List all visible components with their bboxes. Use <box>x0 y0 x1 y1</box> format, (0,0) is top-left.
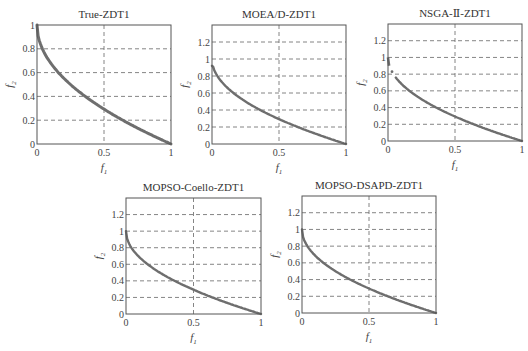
y-tick-label: 1 <box>205 54 210 65</box>
y-tick-label: 1.2 <box>112 209 125 220</box>
x-axis-label: f1 <box>101 161 108 176</box>
y-tick-label: 0.8 <box>198 71 211 82</box>
x-tick-label: 1 <box>169 147 174 158</box>
y-tick-label: 0.2 <box>374 119 387 130</box>
x-tick-label: 1 <box>259 317 264 328</box>
y-tick-label: 1 <box>381 52 386 63</box>
y-tick-label: 0.6 <box>198 88 211 99</box>
y-axis-label: f2 <box>92 252 107 259</box>
y-tick-label: 0.6 <box>112 259 125 270</box>
subplot-title: NSGA-Ⅱ-ZDT1 <box>419 7 491 19</box>
subplot-mopso-coello-zdt1: MOPSO-Coello-ZDT100.20.40.60.811.200.51f… <box>92 181 264 346</box>
y-tick-label: 0.8 <box>112 242 125 253</box>
x-tick-label: 0.5 <box>98 147 111 158</box>
y-tick-label: 0.8 <box>374 69 387 80</box>
y-tick-label: 0.8 <box>288 241 301 252</box>
subplot-moead-zdt1: MOEA/D-ZDT100.20.40.60.811.200.51f1f2 <box>178 8 349 176</box>
x-tick-label: 1 <box>434 316 439 327</box>
pareto-front-curve <box>396 78 522 141</box>
subplot-true-zdt1: True-ZDT100.20.40.60.8100.51f1f2 <box>3 8 174 176</box>
y-axis-label: f2 <box>178 81 193 88</box>
x-tick-label: 0 <box>124 317 129 328</box>
x-tick-label: 0.5 <box>363 316 376 327</box>
y-tick-label: 1 <box>30 20 35 31</box>
y-axis-label: f2 <box>3 81 18 88</box>
y-tick-label: 0.4 <box>288 274 301 285</box>
x-tick-label: 0.5 <box>187 317 200 328</box>
figure: True-ZDT100.20.40.60.8100.51f1f2 MOEA/D-… <box>0 0 528 351</box>
y-tick-label: 0.4 <box>23 91 36 102</box>
x-axis-label: f1 <box>452 158 459 173</box>
y-tick-label: 0.2 <box>198 122 211 133</box>
y-tick-label: 0.2 <box>288 291 301 302</box>
x-axis-label: f1 <box>190 331 197 346</box>
x-tick-label: 1 <box>344 147 349 158</box>
y-tick-label: 0.8 <box>23 43 36 54</box>
y-tick-label: 0.6 <box>374 85 387 96</box>
subplot-title: True-ZDT1 <box>79 8 130 20</box>
y-tick-label: 1.2 <box>288 207 301 218</box>
y-tick-label: 0.2 <box>112 292 125 303</box>
subplot-mopso-dsapd-zdt1: MOPSO-DSAPD-ZDT100.20.40.60.811.200.51f1… <box>268 179 439 345</box>
y-tick-label: 0.4 <box>374 102 387 113</box>
x-tick-label: 0 <box>300 316 305 327</box>
subplot-nsga2-zdt1: NSGA-Ⅱ-ZDT100.20.40.60.811.200.51f1f2 <box>354 7 525 173</box>
y-tick-label: 1 <box>295 224 300 235</box>
subplot-title: MOEA/D-ZDT1 <box>242 8 316 20</box>
y-tick-label: 1.2 <box>198 37 211 48</box>
x-tick-label: 0.5 <box>273 147 286 158</box>
x-tick-label: 1 <box>520 144 525 155</box>
x-tick-label: 0 <box>35 147 40 158</box>
x-axis-label: f1 <box>276 161 283 176</box>
x-tick-label: 0.5 <box>449 144 462 155</box>
y-tick-label: 1 <box>119 226 124 237</box>
subplot-title: MOPSO-Coello-ZDT1 <box>143 181 244 193</box>
subplot-title: MOPSO-DSAPD-ZDT1 <box>315 179 423 191</box>
y-axis-label: f2 <box>354 79 369 86</box>
x-tick-label: 0 <box>210 147 215 158</box>
y-tick-label: 0.4 <box>198 105 211 116</box>
x-axis-label: f1 <box>366 330 373 345</box>
x-tick-label: 0 <box>386 144 391 155</box>
y-axis-label: f2 <box>268 251 283 258</box>
pareto-point <box>391 70 394 73</box>
y-tick-label: 0.6 <box>288 257 301 268</box>
y-tick-label: 0.4 <box>112 275 125 286</box>
y-tick-label: 0.6 <box>23 67 36 78</box>
y-tick-label: 1.2 <box>374 35 387 46</box>
y-tick-label: 0.2 <box>23 115 36 126</box>
